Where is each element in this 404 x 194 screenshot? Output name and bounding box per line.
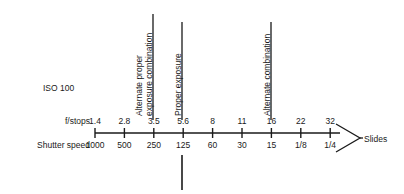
iso-label: ISO 100 <box>43 83 74 93</box>
callout-line-2: exposure combination <box>144 10 154 116</box>
axis-tick-marks <box>95 128 330 138</box>
callout-line-1: Alternate proper <box>134 10 144 116</box>
callout-label-alternate-combination: Alternate combination <box>262 10 272 116</box>
fstop-value-32: 32 <box>310 116 350 126</box>
callout-label-alternate-proper-exposure-combination: Alternate proper exposure combination <box>134 10 154 116</box>
scale-graphics <box>0 0 404 194</box>
exposure-scale-figure: ISO 100 f/stops Shutter speed Slides Alt… <box>0 0 404 194</box>
callout-label-proper-exposure: Proper exposure <box>173 10 183 116</box>
slides-bracket-label: Slides <box>364 134 387 144</box>
shutter-value-1-4: 1/4 <box>310 140 350 150</box>
